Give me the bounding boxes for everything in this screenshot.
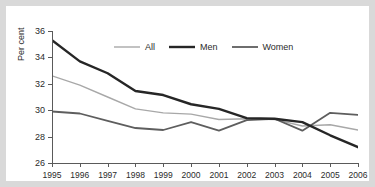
x-tick — [330, 163, 331, 167]
x-tick-label: 2003 — [265, 170, 284, 180]
x-axis-line — [52, 163, 358, 164]
x-tick — [163, 163, 164, 167]
x-tick-label: 1996 — [70, 170, 89, 180]
y-tick-label: 32 — [35, 79, 45, 89]
x-tick-label: 1998 — [126, 170, 145, 180]
y-axis-title: Per cent — [16, 0, 26, 61]
x-tick — [219, 163, 220, 167]
chart-figure: Per cent All Men Women 262830323436 1995… — [6, 6, 369, 181]
x-tick — [135, 163, 136, 167]
y-axis-line — [52, 31, 53, 163]
x-tick — [108, 163, 109, 167]
y-tick-label: 30 — [35, 105, 45, 115]
x-tick-label: 2005 — [321, 170, 340, 180]
y-tick — [48, 84, 52, 85]
x-tick-label: 2004 — [293, 170, 312, 180]
y-tick-label: 28 — [35, 132, 45, 142]
x-tick — [275, 163, 276, 167]
x-tick — [247, 163, 248, 167]
x-tick — [302, 163, 303, 167]
y-tick — [48, 57, 52, 58]
series-lines — [52, 31, 358, 163]
x-tick — [358, 163, 359, 167]
x-tick — [52, 163, 53, 167]
y-tick-label: 34 — [35, 52, 45, 62]
x-tick-label: 2006 — [349, 170, 368, 180]
x-tick-label: 1995 — [43, 170, 62, 180]
x-tick — [80, 163, 81, 167]
y-tick — [48, 31, 52, 32]
y-tick — [48, 110, 52, 111]
y-tick-label: 26 — [35, 158, 45, 168]
x-tick-label: 1997 — [98, 170, 117, 180]
x-tick — [191, 163, 192, 167]
y-tick — [48, 137, 52, 138]
x-tick-label: 2000 — [182, 170, 201, 180]
x-tick-label: 2002 — [237, 170, 256, 180]
x-tick-label: 1999 — [154, 170, 173, 180]
series-line-men — [52, 40, 358, 147]
plot-area: 262830323436 199519961997199819992000200… — [52, 31, 358, 163]
x-tick-label: 2001 — [209, 170, 228, 180]
y-tick-label: 36 — [35, 26, 45, 36]
series-line-all — [52, 76, 358, 130]
